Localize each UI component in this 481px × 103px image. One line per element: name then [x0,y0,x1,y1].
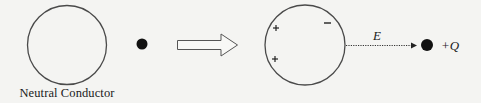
diagram-canvas: E +Q Neutral Conductor [0,0,481,103]
neutral-conductor-circle [28,6,107,85]
plus-charge-icon-upper [273,25,279,31]
polarized-conductor-circle [265,5,345,85]
electric-field-arrow [346,43,417,49]
plus-charge-icon-lower [272,56,278,62]
right-panel: E +Q [265,5,460,85]
point-charge-label: +Q [441,38,460,53]
field-label: E [372,28,381,43]
point-charge-dot-right [421,39,433,51]
transition-arrow-icon [178,34,238,56]
neutral-conductor-caption: Neutral Conductor [0,86,134,101]
left-panel [28,6,148,85]
point-charge-dot-left [137,39,148,50]
